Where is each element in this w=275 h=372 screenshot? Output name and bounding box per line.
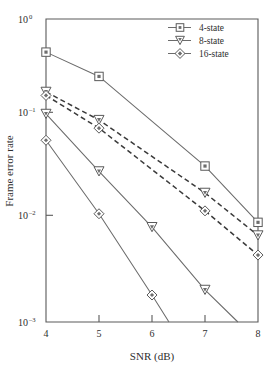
x-tick-label-7: 7	[203, 328, 208, 339]
y-tick-base-1e-2: 10	[18, 210, 28, 221]
square-marker-center-icon	[97, 75, 100, 78]
legend-label-8-state: 8-state	[199, 36, 224, 46]
square-marker-center-icon	[256, 221, 259, 224]
y-tick-base-1e-1: 10	[18, 107, 28, 118]
square-marker-center-icon	[179, 26, 182, 29]
x-tick-label-6: 6	[150, 328, 155, 339]
x-axis-label: SNR (dB)	[130, 350, 175, 363]
frame-error-rate-chart: 4 5 6 7 8 10 0 10 –1 10 –2 10 –3	[0, 0, 275, 372]
chart-figure: 4 5 6 7 8 10 0 10 –1 10 –2 10 –3	[0, 0, 275, 372]
x-tick-label-4: 4	[44, 328, 49, 339]
chart-legend: 4-state 8-state 16-state	[168, 23, 229, 59]
x-tick-label-5: 5	[97, 328, 102, 339]
legend-label-4-state: 4-state	[199, 23, 224, 33]
chart-background	[0, 0, 275, 372]
square-marker-center-icon	[44, 51, 47, 54]
y-tick-base-1e0: 10	[18, 14, 28, 25]
y-tick-base-1e-3: 10	[18, 317, 28, 328]
y-axis-label: Frame error rate	[3, 135, 15, 207]
x-tick-label-8: 8	[256, 328, 261, 339]
square-marker-center-icon	[203, 164, 206, 167]
y-tick-exp-1e-3: –3	[28, 316, 36, 323]
legend-label-16-state: 16-state	[199, 49, 229, 59]
y-tick-exp-1e-2: –2	[28, 209, 36, 216]
y-tick-exp-1e-1: –1	[28, 106, 36, 113]
